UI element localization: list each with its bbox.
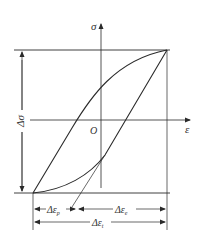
- plastic-strain-label: Δεp: [46, 204, 60, 216]
- hysteresis-diagram: Δσ Δεp Δεe Δεt σ ε O: [0, 0, 205, 241]
- unloading-branch-curve: [33, 50, 167, 193]
- origin-label: O: [90, 125, 97, 136]
- delta-sigma-label: Δσ: [14, 114, 26, 127]
- loading-branch-curve: [33, 50, 167, 193]
- epsilon-axis-label: ε: [185, 123, 190, 135]
- elastic-strain-label: Δεe: [114, 204, 128, 216]
- total-strain-label: Δεt: [91, 217, 104, 229]
- elastic-unloading-line: [72, 155, 105, 207]
- sigma-axis-label: σ: [91, 20, 97, 32]
